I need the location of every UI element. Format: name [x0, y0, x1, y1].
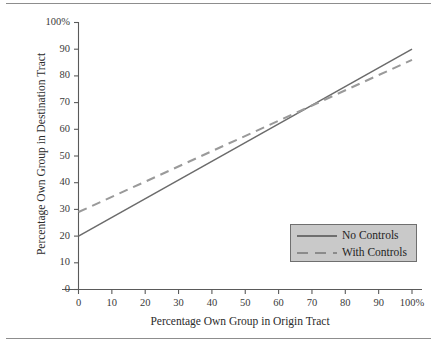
figure-container: 0102030405060708090100% 0102030405060708…	[0, 0, 437, 349]
y-tick-label: 100%	[20, 17, 70, 28]
legend-entry-with-controls: With Controls	[297, 244, 407, 261]
legend-swatch-dashed-line	[297, 247, 337, 259]
x-tick-label: 100%	[387, 298, 437, 309]
legend-entry-no-controls: No Controls	[297, 227, 399, 244]
y-tick-label: 0	[20, 284, 70, 295]
legend-label-with-controls: With Controls	[342, 247, 407, 259]
series-line-no-controls	[79, 49, 413, 236]
legend: No Controls With Controls	[290, 224, 417, 262]
y-axis-title: Percentage Own Group in Destination Trac…	[35, 29, 47, 279]
series-line-with-controls	[79, 60, 413, 212]
legend-swatch-solid-line	[297, 230, 337, 242]
legend-label-no-controls: No Controls	[342, 230, 399, 242]
x-axis-title: Percentage Own Group in Origin Tract	[60, 315, 420, 327]
x-axis-ticks	[79, 290, 413, 295]
y-axis-ticks	[74, 23, 79, 290]
